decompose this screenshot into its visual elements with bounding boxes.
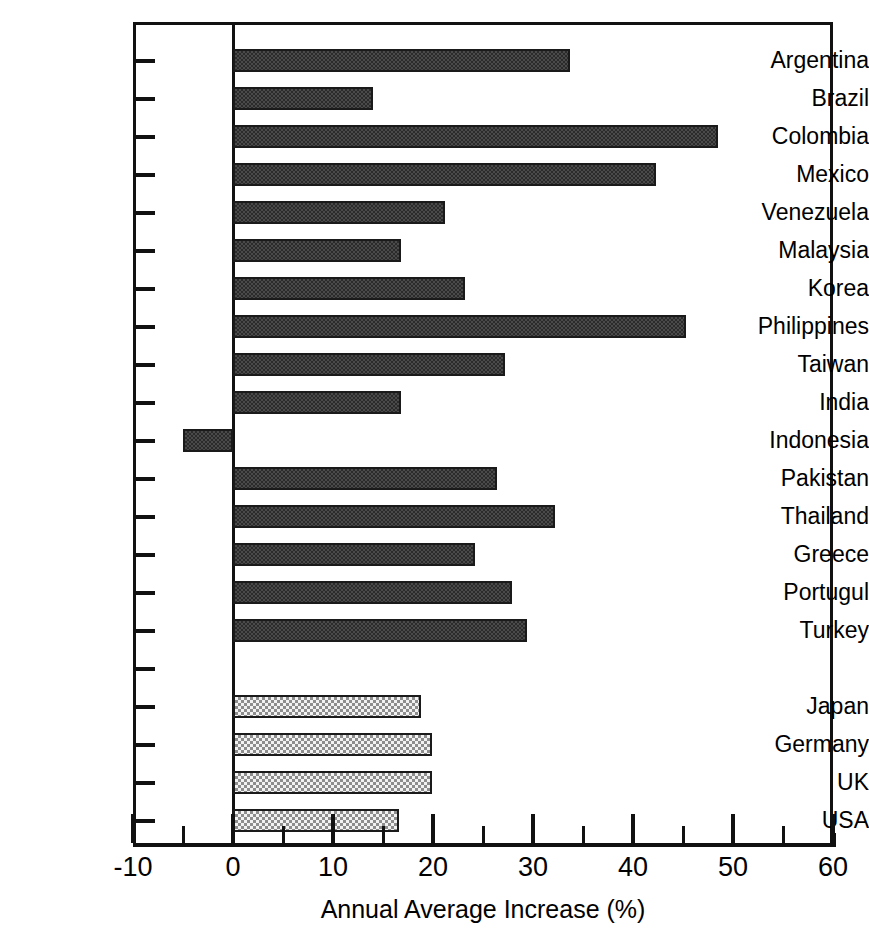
y-axis-tick [133,249,155,253]
bar-colombia [233,125,718,148]
x-axis-title: Annual Average Increase (%) [133,895,833,923]
x-axis-tick-label: 50 [718,852,748,882]
y-axis-label-brazil: Brazil [741,87,869,110]
bar-argentina [233,49,570,72]
y-axis-tick [133,363,155,367]
y-axis-label-germany: Germany [741,733,869,756]
y-axis-tick [133,97,155,101]
bar-thailand [233,505,555,528]
bar-taiwan [233,353,505,376]
y-axis-tick [133,553,155,557]
x-axis-minor-tick [582,826,585,843]
x-axis-minor-tick [182,826,185,843]
bar-germany [233,733,432,756]
x-axis-tick-label: 10 [318,852,348,882]
x-axis-major-tick [131,814,135,843]
y-axis-tick [133,743,155,747]
y-axis-tick [133,819,155,823]
bar-malaysia [233,239,401,262]
x-axis-major-tick [731,814,735,843]
y-axis-tick [133,667,155,671]
bar-uk [233,771,432,794]
bar-portugul [233,581,512,604]
y-axis-label-greece: Greece [741,543,869,566]
bar-usa [233,809,399,832]
y-axis-tick [133,629,155,633]
y-axis-tick [133,211,155,215]
x-axis-major-tick [631,814,635,843]
x-axis-tick-label: -10 [113,852,152,882]
y-axis-label-colombia: Colombia [741,125,869,148]
y-axis-label-india: India [741,391,869,414]
x-axis-major-tick [531,814,535,843]
x-axis-tick-label: 20 [418,852,448,882]
bar-brazil [233,87,373,110]
bar-venezuela [233,201,445,224]
x-axis-line [133,843,836,847]
y-axis-label-thailand: Thailand [741,505,869,528]
bar-philippines [233,315,686,338]
x-axis-minor-tick [382,826,385,843]
y-axis-tick [133,477,155,481]
y-axis-label-malaysia: Malaysia [741,239,869,262]
y-axis-label-argentina: Argentina [741,49,869,72]
y-axis-tick [133,287,155,291]
y-axis-tick [133,59,155,63]
x-axis-major-tick [231,814,235,843]
y-axis-tick [133,781,155,785]
y-axis-label-taiwan: Taiwan [741,353,869,376]
bar-greece [233,543,475,566]
x-axis-tick-label: 60 [818,852,848,882]
y-axis-label-indonesia: Indonesia [741,429,869,452]
y-axis-tick [133,135,155,139]
y-axis-tick [133,173,155,177]
y-axis-tick [133,401,155,405]
bar-pakistan [233,467,497,490]
y-axis-tick [133,591,155,595]
y-axis-tick [133,325,155,329]
y-axis-label-korea: Korea [741,277,869,300]
x-axis-major-tick [831,814,835,843]
x-axis-tick-label: 0 [225,852,240,882]
x-axis-minor-tick [482,826,485,843]
bar-india [233,391,401,414]
y-axis-label-pakistan: Pakistan [741,467,869,490]
bar-mexico [233,163,656,186]
y-axis-label-venezuela: Venezuela [741,201,869,224]
y-axis-tick [133,439,155,443]
y-axis-label-japan: Japan [741,695,869,718]
x-axis-minor-tick [782,826,785,843]
x-axis-major-tick [431,814,435,843]
x-axis-tick-label: 40 [618,852,648,882]
x-axis-tick-label: 30 [518,852,548,882]
x-axis-major-tick [331,814,335,843]
bar-indonesia [183,429,233,452]
y-axis-label-usa: USA [741,809,869,832]
x-axis-minor-tick [682,826,685,843]
bar-chart: ArgentinaBrazilColombiaMexicoVenezuelaMa… [0,0,869,934]
x-axis-minor-tick [282,826,285,843]
y-axis-label-turkey: Turkey [741,619,869,642]
bar-korea [233,277,465,300]
y-axis-tick [133,705,155,709]
y-axis-tick [133,515,155,519]
bar-turkey [233,619,527,642]
bar-japan [233,695,421,718]
y-axis-label-mexico: Mexico [741,163,869,186]
y-axis-label-uk: UK [741,771,869,794]
y-axis-label-philippines: Philippines [741,315,869,338]
y-axis-label-portugul: Portugul [741,581,869,604]
